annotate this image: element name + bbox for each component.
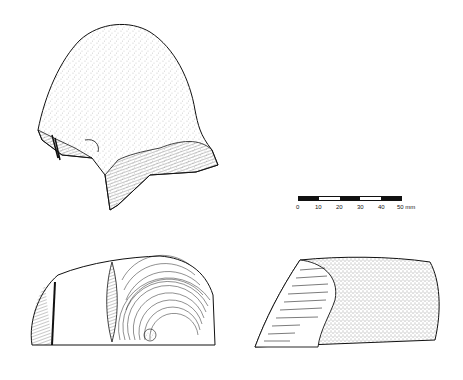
scale-bar-segments bbox=[298, 196, 402, 201]
scale-segment bbox=[360, 197, 380, 200]
lithic-figure bbox=[0, 0, 463, 380]
scale-bar: 0 10 20 30 40 50 mm bbox=[298, 196, 408, 218]
scale-segment bbox=[381, 197, 401, 200]
scale-label: 0 bbox=[296, 204, 299, 210]
bottom-left-view-drawing bbox=[31, 255, 215, 345]
scale-label: 50 mm bbox=[397, 204, 415, 210]
scale-segment bbox=[319, 197, 339, 200]
scale-label: 20 bbox=[336, 204, 343, 210]
scale-segment bbox=[299, 197, 319, 200]
bottom-right-view-drawing bbox=[255, 257, 439, 347]
scale-segment bbox=[340, 197, 360, 200]
scale-label: 30 bbox=[357, 204, 364, 210]
top-view-drawing bbox=[38, 24, 218, 210]
scale-labels: 0 10 20 30 40 50 mm bbox=[296, 204, 416, 214]
scale-label: 40 bbox=[378, 204, 385, 210]
scale-label: 10 bbox=[315, 204, 322, 210]
